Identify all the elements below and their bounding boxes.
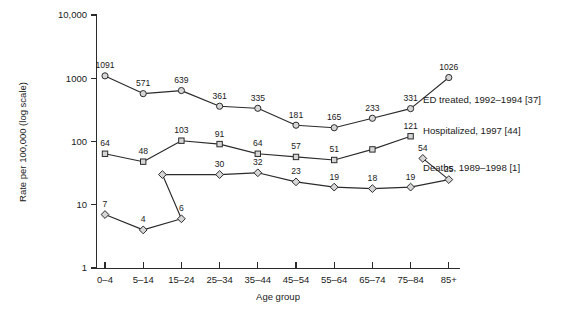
y-tick-label: 10: [76, 199, 87, 210]
data-point-label: 19: [406, 172, 416, 182]
data-point-label: 91: [215, 129, 225, 139]
data-point-label: 30: [215, 159, 225, 169]
x-tick-label: 0–4: [97, 274, 113, 285]
data-point-marker: [446, 74, 452, 80]
x-axis-title: Age group: [256, 291, 300, 302]
data-point-marker: [255, 105, 261, 111]
data-point-marker: [293, 154, 298, 159]
data-point-label: 54: [418, 143, 428, 153]
data-point-marker: [102, 73, 108, 79]
x-tick-label: 85+: [441, 274, 458, 285]
data-point-label: 121: [403, 121, 418, 131]
data-point-marker: [255, 151, 260, 156]
x-tick-label: 35–44: [245, 274, 271, 285]
data-point-label: 335: [251, 93, 266, 103]
data-point-label: 6: [179, 203, 184, 213]
x-tick-label: 25–34: [206, 274, 232, 285]
x-tick-label: 75–84: [397, 274, 423, 285]
chart-figure: 110100100010,000 0–45–1415–2425–3435–444…: [0, 0, 562, 312]
data-point-marker: [140, 91, 146, 97]
y-tick-label: 1: [82, 262, 87, 273]
data-point-marker: [408, 106, 414, 112]
data-point-label: 103: [174, 125, 189, 135]
data-point-label: 1091: [95, 60, 114, 70]
data-point-marker: [217, 141, 222, 146]
y-tick-label: 10,000: [58, 9, 87, 20]
legend-item-label: ED treated, 1992–1994 [37]: [423, 94, 541, 105]
x-tick-label: 5–14: [133, 274, 154, 285]
data-point-label: 18: [368, 173, 378, 183]
data-point-label: 23: [291, 166, 301, 176]
data-point-marker: [293, 122, 299, 128]
x-tick-label: 15–24: [168, 274, 194, 285]
data-point-marker: [369, 115, 375, 121]
data-point-marker: [217, 103, 223, 109]
data-point-marker: [102, 151, 107, 156]
y-axis-title: Rate per 100,000 (log scale): [17, 82, 28, 202]
data-point-label: 19: [329, 172, 339, 182]
x-tick-label: 45–54: [283, 274, 309, 285]
data-point-marker: [179, 138, 184, 143]
data-point-label: 64: [253, 138, 263, 148]
data-point-marker: [408, 134, 413, 139]
data-point-label: 331: [403, 93, 418, 103]
data-point-label: 571: [136, 78, 151, 88]
chart-svg: 110100100010,000 0–45–1415–2425–3435–444…: [0, 0, 562, 312]
data-point-label: 165: [327, 112, 342, 122]
data-point-label: 32: [253, 157, 263, 167]
y-tick-label: 1000: [66, 73, 87, 84]
data-point-label: 1026: [439, 62, 458, 72]
x-tick-label: 55–64: [321, 274, 347, 285]
data-point-label: 51: [329, 144, 339, 154]
data-point-marker: [331, 125, 337, 131]
data-point-label: 639: [174, 75, 189, 85]
data-point-label: 57: [291, 141, 301, 151]
data-point-label: 48: [138, 146, 148, 156]
legend-item-label: Deaths, 1989–1998 [1]: [423, 162, 520, 173]
data-point-label: 181: [289, 110, 304, 120]
data-point-label: 4: [141, 214, 146, 224]
data-point-label: 7: [103, 199, 108, 209]
data-point-label: 361: [212, 91, 227, 101]
x-tick-label: 65–74: [359, 274, 385, 285]
data-point-label: 233: [365, 103, 380, 113]
data-point-marker: [141, 159, 146, 164]
data-point-marker: [332, 157, 337, 162]
data-point-marker: [178, 87, 184, 93]
legend-item-label: Hospitalized, 1997 [44]: [423, 125, 521, 136]
data-point-label: 64: [100, 138, 110, 148]
y-tick-label: 100: [71, 136, 87, 147]
data-point-marker: [370, 147, 375, 152]
